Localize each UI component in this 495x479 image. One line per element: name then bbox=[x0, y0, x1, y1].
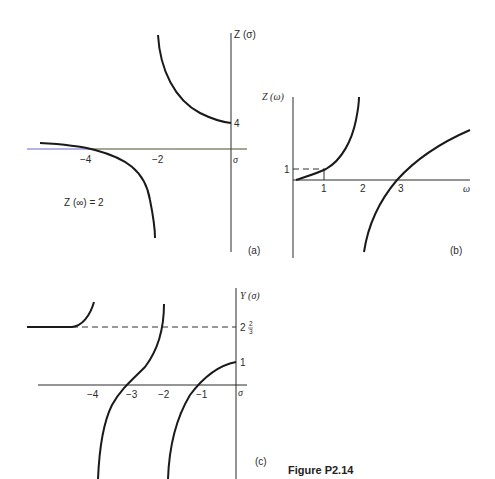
panel-b-curve-first bbox=[296, 97, 359, 180]
panel-b-tag: (b) bbox=[450, 245, 462, 256]
panel-c-ytick-1: 1 bbox=[240, 357, 246, 368]
panel-b-xtick-1: 1 bbox=[321, 183, 327, 194]
panel-b: Z (ω) 1 1 2 3 ω (b) bbox=[262, 91, 470, 258]
panel-a-annotation: Z (∞) = 2 bbox=[64, 197, 104, 208]
panel-c-xtick-neg4: −4 bbox=[87, 389, 99, 400]
panel-c-xtick-neg1: −1 bbox=[196, 389, 208, 400]
panel-c-xtick-neg2: −2 bbox=[158, 389, 170, 400]
panel-b-ytick-1: 1 bbox=[284, 164, 290, 175]
panel-a-xtick-neg2: −2 bbox=[152, 154, 164, 165]
panel-c-ytick-fraction-den: 3 bbox=[249, 328, 253, 335]
panel-c: Y (σ) 2 2 3 1 −4 −3 −2 −1 σ (c) bbox=[27, 288, 267, 479]
panel-a-curve-lower bbox=[40, 143, 155, 238]
panel-c-xtick-neg3: −3 bbox=[126, 389, 138, 400]
panel-c-y-label: Y (σ) bbox=[240, 290, 260, 302]
panel-a-ytick-4: 4 bbox=[234, 118, 240, 129]
panel-c-x-label: σ bbox=[238, 387, 244, 398]
panel-b-xtick-2: 2 bbox=[360, 183, 366, 194]
panel-b-xtick-3: 3 bbox=[398, 183, 404, 194]
panel-c-curve-right bbox=[168, 362, 236, 479]
panel-b-curve-second bbox=[364, 130, 470, 252]
figure-caption: Figure P2.14 bbox=[288, 464, 354, 476]
panel-a-tag: (a) bbox=[248, 245, 260, 256]
panel-b-x-label: ω bbox=[463, 183, 470, 194]
panel-c-curve-left bbox=[27, 302, 94, 327]
panel-b-y-label: Z (ω) bbox=[262, 91, 284, 103]
panel-c-tag: (c) bbox=[255, 456, 267, 467]
panel-c-ytick-fraction-num: 2 bbox=[249, 320, 253, 327]
panel-a-x-label: σ bbox=[233, 154, 239, 165]
panel-a-y-label: Z (σ) bbox=[234, 29, 256, 40]
panel-a: Z (σ) 4 −4 −2 σ Z (∞) = 2 (a) bbox=[27, 29, 260, 256]
panel-a-curve-upper bbox=[158, 35, 231, 123]
figure-p2-14: Z (σ) 4 −4 −2 σ Z (∞) = 2 (a) Z (ω) 1 1 … bbox=[0, 0, 495, 479]
panel-c-ytick-fraction-whole: 2 bbox=[240, 322, 246, 333]
panel-a-xtick-neg4: −4 bbox=[80, 154, 92, 165]
